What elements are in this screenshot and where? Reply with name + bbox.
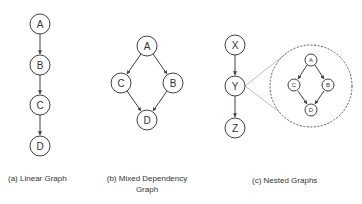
nested-node-b: B [322,79,334,91]
svg-text:B: B [170,78,177,89]
svg-text:D: D [309,107,314,113]
linear-graph: A B C D [30,14,50,156]
caption-linear-graph: (a) Linear Graph [8,173,67,184]
nested-graphs: X Y Z A C B D [225,35,352,138]
node-b: B [163,73,183,93]
svg-text:X: X [232,40,239,51]
node-d: D [137,110,157,130]
svg-text:B: B [326,82,330,88]
caption-line-2: Graph [100,184,194,195]
edge-a-to-b [153,54,167,74]
nested-node-c: C [288,79,300,91]
mixed-dependency-graph: A C B D [111,36,183,130]
node-x: X [225,35,245,55]
svg-text:D: D [143,115,150,126]
svg-text:D: D [36,141,43,152]
caption-mixed-dependency-graph: (b) Mixed Dependency Graph [100,173,194,195]
node-b: B [30,55,50,75]
edge-a-to-c [127,54,141,74]
node-z: Z [225,118,245,138]
nested-node-d: D [305,104,317,116]
nested-node-a: A [305,54,317,66]
svg-text:C: C [292,82,297,88]
svg-text:C: C [36,100,43,111]
svg-text:Z: Z [232,123,238,134]
edge-c-to-d [127,91,141,111]
node-c: C [111,73,131,93]
svg-text:C: C [117,78,124,89]
node-a: A [137,36,157,56]
node-c: C [30,95,50,115]
caption-line-1: (b) Mixed Dependency [100,173,194,184]
node-d: D [30,136,50,156]
svg-text:A: A [37,19,44,30]
node-a: A [30,14,50,34]
svg-text:B: B [37,60,44,71]
svg-text:A: A [309,57,313,63]
node-y: Y [225,76,245,96]
caption-nested-graphs: (c) Nested Graphs [252,175,317,186]
svg-text:Y: Y [232,81,239,92]
edge-b-to-d [153,91,167,111]
svg-text:A: A [144,41,151,52]
